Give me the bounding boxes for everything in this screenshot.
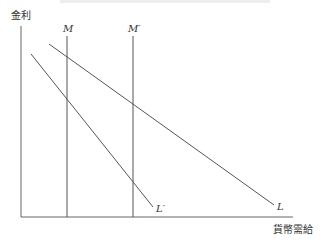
x-axis-label: 貨幣需給 xyxy=(273,223,313,235)
y-axis-label: 金利 xyxy=(11,9,31,21)
label-L: L xyxy=(276,201,284,212)
label-M: M xyxy=(62,23,74,34)
label-M-prime: M′ xyxy=(127,23,141,34)
money-market-diagram: 金利 貨幣需給 M M′ L L′ xyxy=(0,0,322,242)
label-L-prime: L′ xyxy=(155,203,166,214)
money-demand-line-L-prime xyxy=(31,54,153,207)
money-demand-line-L xyxy=(49,44,274,205)
